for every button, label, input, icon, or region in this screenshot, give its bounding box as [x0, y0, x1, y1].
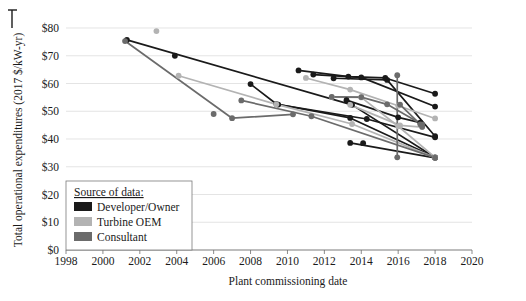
x-tick-label: 2006 [202, 255, 225, 267]
legend-swatch [74, 202, 92, 211]
x-axis-title: Plant commissioning date [229, 275, 348, 288]
data-point [397, 102, 403, 108]
y-tick-label: $70 [42, 50, 60, 62]
data-point [358, 94, 364, 100]
data-point [345, 74, 351, 80]
data-point [394, 154, 400, 160]
y-tick-label: $30 [42, 161, 60, 173]
y-tick-label: $10 [42, 216, 60, 228]
x-tick-label: 2000 [91, 255, 114, 267]
data-point [432, 116, 438, 122]
chart-figure: 1998200020022004200620082010201220142016… [0, 0, 526, 301]
y-tick-label: $80 [42, 22, 60, 34]
data-point [347, 102, 353, 108]
x-tick-label: 2012 [313, 255, 336, 267]
y-tick-label: $40 [42, 133, 60, 145]
data-point [154, 28, 160, 34]
y-axis-tick-labels: $0$10$20$30$40$50$60$70$80 [42, 22, 60, 256]
data-point [360, 140, 366, 146]
data-point [347, 115, 353, 121]
y-axis-title: Total operational expenditures (2017 $/k… [12, 33, 25, 248]
x-tick-label: 2010 [276, 255, 299, 267]
data-point [432, 91, 438, 97]
data-point [211, 111, 217, 117]
legend-title: Source of data: [74, 186, 144, 198]
data-point [432, 104, 438, 110]
legend-label: Consultant [97, 231, 148, 243]
data-point [248, 81, 254, 87]
data-point [349, 121, 355, 127]
data-point [364, 116, 370, 122]
data-point [296, 68, 302, 74]
x-tick-label: 2014 [350, 255, 373, 267]
y-tick-label: $0 [48, 244, 60, 256]
x-tick-label: 2008 [239, 255, 262, 267]
x-tick-label: 2002 [128, 255, 151, 267]
data-point [432, 134, 438, 140]
x-tick-label: 2016 [387, 255, 410, 267]
data-point [331, 75, 337, 81]
x-tick-label: 1998 [55, 255, 78, 267]
data-point [432, 155, 438, 161]
legend-swatch [74, 217, 92, 226]
data-point [122, 38, 128, 44]
data-point [273, 101, 279, 107]
data-point [384, 101, 390, 107]
data-point [347, 140, 353, 146]
data-point [344, 97, 350, 103]
data-point [310, 72, 316, 78]
legend-swatch [74, 232, 92, 241]
y-tick-label: $50 [42, 105, 60, 117]
x-tick-label: 2018 [424, 255, 447, 267]
data-point [419, 124, 425, 130]
data-point [238, 98, 244, 104]
data-point [329, 94, 335, 100]
data-point [395, 114, 401, 120]
data-point [290, 111, 296, 117]
opex-line-chart: 1998200020022004200620082010201220142016… [0, 0, 526, 301]
data-point [309, 113, 315, 119]
legend: Source of data:Developer/OwnerTurbine OE… [66, 181, 192, 250]
x-tick-label: 2020 [461, 255, 484, 267]
data-point [303, 75, 309, 81]
data-point [358, 74, 364, 80]
y-tick-label: $20 [42, 189, 60, 201]
legend-label: Turbine OEM [97, 216, 161, 228]
x-tick-label: 2004 [165, 255, 188, 267]
data-point [229, 115, 235, 121]
data-point [176, 73, 182, 79]
data-point [397, 123, 403, 129]
data-point [172, 53, 178, 59]
y-tick-label: $60 [42, 78, 60, 90]
chart-background [0, 0, 526, 301]
data-point [347, 87, 353, 93]
data-point [384, 77, 390, 83]
data-point [394, 72, 400, 78]
legend-label: Developer/Owner [97, 201, 180, 214]
